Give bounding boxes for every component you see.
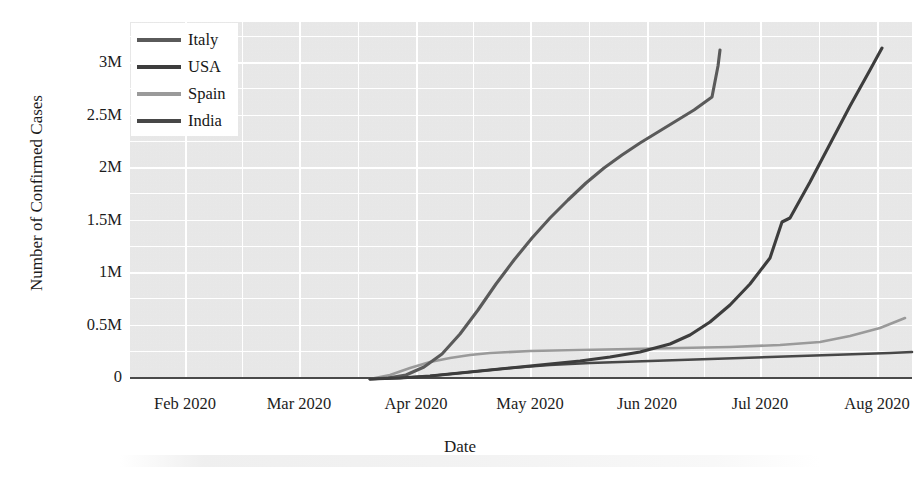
legend-label-usa: USA — [188, 59, 221, 76]
legend-key-usa — [137, 65, 181, 68]
x-axis-title: Date — [0, 437, 920, 457]
x-tick-label: Mar 2020 — [267, 396, 332, 413]
y-tick-label: 0.5M — [0, 317, 122, 334]
x-tick-label: Apr 2020 — [385, 396, 448, 413]
x-tick-label: Feb 2020 — [154, 396, 216, 413]
legend: Italy USA Spain India — [131, 23, 238, 136]
legend-key-italy — [137, 38, 181, 41]
legend-item-spain[interactable]: Spain — [137, 81, 226, 107]
y-tick-label: 1.5M — [0, 212, 122, 229]
legend-label-india: India — [188, 113, 222, 130]
legend-item-italy[interactable]: Italy — [137, 27, 218, 53]
y-tick-label: 0 — [0, 369, 122, 386]
legend-key-india — [137, 119, 181, 122]
y-tick-label: 3M — [0, 54, 122, 71]
legend-label-italy: Italy — [188, 32, 218, 49]
series-line-italy — [370, 50, 720, 379]
x-tick-label: Jul 2020 — [732, 396, 788, 413]
gridline-v-minor — [128, 22, 129, 379]
y-tick-label: 2.5M — [0, 107, 122, 124]
series-line-spain — [370, 318, 905, 379]
series-line-usa — [370, 48, 882, 379]
y-axis-title: Number of Confirmed Cases — [27, 23, 47, 363]
y-tick-label: 1M — [0, 264, 122, 281]
x-tick-label: May 2020 — [496, 396, 563, 413]
x-tick-label: Aug 2020 — [844, 396, 910, 413]
legend-label-spain: Spain — [188, 86, 226, 103]
x-tick-label: Jun 2020 — [617, 396, 677, 413]
legend-key-spain — [137, 92, 181, 95]
chart-figure: Italy USA Spain India 3M2.5M2M1.5M1M0.5M… — [0, 0, 920, 479]
series-lines — [130, 22, 912, 379]
legend-item-india[interactable]: India — [137, 108, 222, 134]
plot-panel — [130, 22, 912, 379]
legend-item-usa[interactable]: USA — [137, 54, 221, 80]
y-tick-label: 2M — [0, 159, 122, 176]
